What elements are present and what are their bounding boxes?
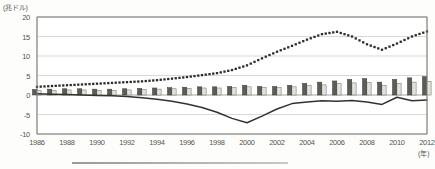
bar-light [382,85,386,95]
bar-light [202,88,206,95]
bar-dark [422,77,426,95]
bar-light [142,90,146,95]
dotted-line-marker [246,64,248,66]
dotted-line-marker [190,75,192,77]
bar-light [337,84,341,95]
dotted-line-marker [85,83,87,85]
bar-dark [362,79,366,95]
dotted-line-marker [137,80,139,82]
bar-light [367,83,371,95]
dotted-line-marker [298,42,300,44]
bar-dark [167,88,171,95]
dotted-line-marker [51,85,53,87]
bar-light [397,83,401,95]
dotted-line-marker [167,78,169,80]
bar-dark [407,78,411,95]
dotted-line-marker [118,81,120,83]
bar-dark [257,86,261,95]
dotted-line-marker [197,74,199,76]
dotted-line-marker [70,84,72,86]
dotted-line-marker [422,32,424,34]
dotted-line-marker [373,46,375,48]
dotted-line-marker [175,77,177,79]
dotted-line-marker [163,78,165,80]
bar-light [262,88,266,95]
dotted-line-marker [343,33,345,35]
bar-dark [137,88,141,95]
dotted-line-marker [272,52,274,54]
bar-dark [122,89,126,95]
dotted-line-marker [418,33,420,35]
dotted-line-marker [403,39,405,41]
dotted-line-marker [265,56,267,58]
dotted-line-marker [220,71,222,73]
bar-light [232,88,236,95]
dotted-line-marker [216,72,218,74]
dotted-line-marker [261,57,263,59]
bar-light [127,90,131,95]
dotted-line-marker [362,41,364,43]
dotted-line-marker [283,48,285,50]
bar-dark [197,87,201,95]
bar-dark [107,89,111,95]
bar-dark [77,89,81,95]
dotted-line-marker [58,84,60,86]
dotted-line-marker [347,34,349,36]
dotted-line-marker [182,76,184,78]
dotted-line-marker [310,37,312,39]
dotted-line-marker [40,85,42,87]
dotted-line-marker [325,32,327,34]
bar-dark [32,90,36,95]
dotted-line-marker [313,36,315,38]
dotted-line-marker [141,80,143,82]
dotted-line-marker [88,83,90,85]
dotted-line-marker [235,68,237,70]
dotted-line-marker [340,32,342,34]
bar-light [292,87,296,95]
bar-light [172,89,176,95]
dotted-line-marker [100,82,102,84]
dotted-line-marker [92,83,94,85]
dotted-line-marker [103,82,105,84]
dotted-line-marker [126,81,128,83]
bar-light [322,85,326,95]
dotted-line-marker [355,37,357,39]
dotted-line-marker [295,43,297,45]
dotted-line-marker [96,83,98,85]
dotted-line-marker [302,40,304,42]
dotted-line-marker [231,69,233,71]
bar-light [307,86,311,95]
dotted-line-marker [257,59,259,61]
dotted-line-marker [62,84,64,86]
dotted-line-marker [238,67,240,69]
dotted-line-marker [122,81,124,83]
dotted-line-marker [160,79,162,81]
dotted-line-marker [201,74,203,76]
dotted-line-marker [351,35,353,37]
bar-light [352,83,356,95]
dotted-line-marker [66,84,68,86]
bar-dark [317,82,321,95]
dotted-line-marker [171,77,173,79]
dotted-line-marker [227,70,229,72]
dotted-line-marker [223,70,225,72]
dotted-line-marker [280,49,282,51]
bar-dark [332,81,336,95]
dotted-line-marker [152,79,154,81]
dotted-line-marker [212,72,214,74]
dotted-line-marker [287,46,289,48]
bar-light [82,90,86,95]
bar-dark [392,79,396,95]
dotted-line-marker [77,84,79,86]
dotted-line-marker [145,80,147,82]
bar-dark [302,83,306,95]
dotted-line-marker [377,47,379,49]
dotted-line-marker [388,45,390,47]
bar-dark [242,85,246,95]
dotted-line-marker [115,82,117,84]
dotted-line-marker [276,51,278,53]
dotted-line-marker [336,31,338,33]
bar-dark [377,82,381,95]
